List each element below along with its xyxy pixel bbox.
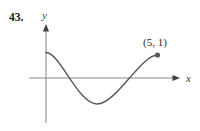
x-axis-arrowhead — [173, 75, 181, 81]
point-label: (5, 1) — [143, 36, 167, 49]
endpoint-dot — [155, 52, 160, 57]
x-axis-label: x — [185, 72, 191, 84]
problem-number: 43. — [9, 11, 24, 23]
y-axis-arrowhead — [43, 24, 49, 32]
graph-canvas: 43. x y (5, 1) — [0, 0, 200, 131]
textbook-figure-problem-43: 43. x y (5, 1) — [0, 0, 200, 131]
y-axis-label: y — [41, 9, 47, 21]
